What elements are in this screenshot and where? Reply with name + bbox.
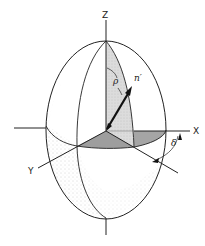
- rho-label: ρ: [112, 76, 119, 86]
- ellipsoid-diagram: Z X Y ρ n′ δ: [0, 0, 205, 246]
- x-axis-label: X: [193, 126, 199, 136]
- delta-label: δ: [171, 138, 176, 148]
- equatorial-sector-right: [134, 131, 166, 147]
- normal-label: n′: [134, 73, 142, 83]
- z-axis-label: Z: [102, 10, 108, 20]
- delta-arrow-top: [178, 133, 182, 140]
- y-axis-label: Y: [27, 166, 34, 176]
